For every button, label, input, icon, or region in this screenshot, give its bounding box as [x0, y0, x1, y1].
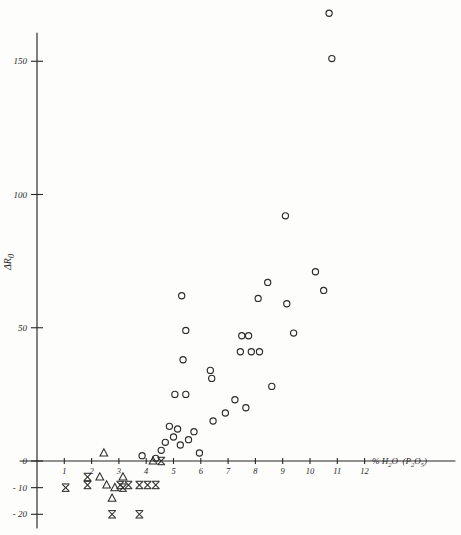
- data-point-circle: [180, 357, 186, 363]
- x-tick-label: 3: [116, 466, 121, 476]
- y-axis-title-delta: Δ: [2, 264, 13, 270]
- data-point-x-barred: [152, 481, 160, 488]
- data-point-circle: [174, 426, 180, 432]
- data-point-circle: [158, 447, 164, 453]
- data-point-circle: [265, 279, 271, 285]
- data-point-triangle: [103, 481, 111, 488]
- data-point-circle: [170, 434, 176, 440]
- y-tick-label: 50: [18, 323, 28, 333]
- data-point-circle: [326, 10, 332, 16]
- x-tick-label: 8: [253, 466, 258, 476]
- x-axis-title: % H2O (P2O5): [372, 456, 427, 468]
- y-tick-label: - 10: [13, 483, 28, 493]
- data-point-circle: [183, 327, 189, 333]
- data-point-circle: [172, 391, 178, 397]
- data-point-circle: [282, 213, 288, 219]
- data-point-circle: [284, 301, 290, 307]
- y-tick-label: 0: [23, 456, 28, 466]
- x-axis-title-percent: %: [372, 456, 380, 466]
- data-point-circle: [269, 383, 275, 389]
- plot-canvas: - 20- 10050100150 123456789101112: [0, 0, 461, 535]
- data-point-circle: [179, 293, 185, 299]
- x-tick-label: 6: [199, 466, 204, 476]
- y-axis-title-sub: 0: [7, 254, 16, 258]
- data-point-x-barred: [62, 484, 70, 491]
- x-axis-title-o: O: [392, 456, 399, 466]
- x-tick-label: 5: [171, 466, 175, 476]
- data-point-circle: [185, 437, 191, 443]
- data-point-triangle: [100, 449, 108, 456]
- data-point-circle: [209, 375, 215, 381]
- data-point-circle: [256, 349, 262, 355]
- y-axis-title: ΔR0: [2, 210, 16, 270]
- data-point-x-barred: [135, 511, 143, 518]
- y-tick-label: 100: [14, 190, 28, 200]
- x-tick-label: 12: [360, 466, 369, 476]
- data-point-circle: [191, 429, 197, 435]
- y-tick-label: 150: [14, 56, 28, 66]
- data-point-circle: [196, 450, 202, 456]
- data-point-triangle: [108, 494, 116, 501]
- data-point-circle: [162, 439, 168, 445]
- x-tick-label: 7: [226, 466, 231, 476]
- data-point-circle: [177, 442, 183, 448]
- data-point-x-barred: [84, 481, 92, 488]
- y-tick-label: - 20: [13, 509, 28, 519]
- data-marker-group: [62, 0, 335, 518]
- data-point-circle: [210, 418, 216, 424]
- data-point-circle: [239, 333, 245, 339]
- data-point-circle: [243, 405, 249, 411]
- data-point-circle: [248, 349, 254, 355]
- data-point-circle: [183, 391, 189, 397]
- data-point-circle: [291, 330, 297, 336]
- x-tick-label: 1: [62, 466, 66, 476]
- data-point-circle: [237, 349, 243, 355]
- data-point-triangle: [96, 473, 104, 480]
- data-point-circle: [232, 397, 238, 403]
- y-tick-group: - 20- 10050100150: [13, 56, 43, 519]
- data-point-x-barred: [84, 473, 92, 480]
- data-point-x-barred: [144, 481, 152, 488]
- x-tick-label: 4: [144, 466, 149, 476]
- data-point-circle: [312, 269, 318, 275]
- data-point-x-barred: [135, 481, 143, 488]
- x-tick-label: 9: [281, 466, 286, 476]
- data-point-circle: [139, 453, 145, 459]
- scatter-plot-figure: - 20- 10050100150 123456789101112 ΔR0 % …: [0, 0, 461, 535]
- data-point-x-barred: [108, 511, 116, 518]
- data-point-circle: [222, 410, 228, 416]
- data-point-circle: [245, 333, 251, 339]
- x-tick-label: 10: [306, 466, 315, 476]
- data-point-circle: [207, 367, 213, 373]
- data-point-circle: [255, 295, 261, 301]
- data-point-circle: [166, 423, 172, 429]
- x-tick-label: 11: [333, 466, 341, 476]
- y-axis-title-r: R: [2, 258, 13, 264]
- x-axis-title-paren-close: ): [424, 456, 427, 466]
- data-point-circle: [321, 287, 327, 293]
- data-point-circle: [329, 55, 335, 61]
